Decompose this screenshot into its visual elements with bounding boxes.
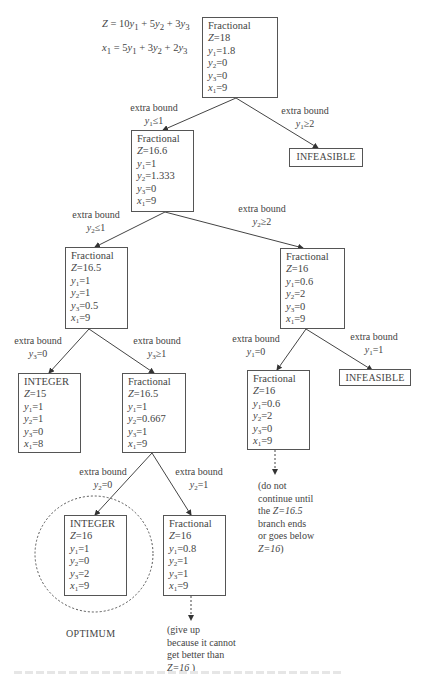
node-z16-waiting: Fractional Z=16 y1=0.6 y2=2 y3=0 x1=9	[247, 370, 310, 450]
node-infeasible-right: INFEASIBLE	[339, 369, 411, 386]
node-status: Fractional	[128, 376, 185, 388]
node-status: INTEGER	[24, 376, 80, 388]
node-z16-giveup: Fractional Z=16 y1=0.8 y2=1 y3=1 x1=9	[163, 515, 226, 596]
edge-label-y2-eq1: extra boundy2=1	[169, 465, 229, 491]
node-status: Fractional	[137, 133, 193, 145]
node-root: Fractional Z=18 y1=1.8 y2=0 y3=0 x1=9	[202, 17, 278, 98]
node-status: Fractional	[71, 250, 127, 262]
edge-label-y1-eq1: extra boundy1=1	[344, 330, 404, 356]
figure-caption-faint	[14, 671, 344, 674]
optimum-label: OPTIMUM	[66, 628, 115, 639]
edge-label-y3-ge1: extra boundy3≥1	[127, 334, 187, 360]
node-status: Fractional	[253, 373, 309, 385]
node-status: INTEGER	[70, 518, 126, 530]
edge-label-y1-le1: extra boundy1≤1	[124, 101, 184, 127]
node-integer-z15: INTEGER Z=15 y1=1 y2=1 y3=0 x1=8	[18, 373, 81, 453]
node-z16-5-a: Fractional Z=16.5 y1=1 y2=1 y3=0.5 x1=9	[65, 247, 128, 329]
node-status: Fractional	[169, 518, 225, 530]
note-do-not-continue: (do not continue until the Z=16.5 branch…	[258, 480, 314, 556]
node-z16-right: Fractional Z=16 y1=0.6 y2=2 y3=0 x1=9	[280, 248, 345, 329]
node-z16-5-b: Fractional Z=16.5 y1=1 y2=0.667 y3=1 x1=…	[122, 373, 186, 453]
node-z16-6: Fractional Z=16.6 y1=1 y2=1.333 y3=0 x1=…	[131, 130, 194, 212]
edge-label-y3-eq0: extra boundy3=0	[8, 334, 68, 360]
node-status: Fractional	[208, 20, 277, 32]
edge-label-y1-eq0: extra boundy1=0	[226, 332, 286, 358]
node-integer-z16-optimum: INTEGER Z=16 y1=1 y2=0 y3=2 x1=9	[64, 515, 127, 596]
node-status: Fractional	[286, 251, 344, 263]
edge-label-y2-eq0: extra boundy2=0	[73, 465, 133, 491]
edge-label-y2-ge2: extra boundy2≥2	[232, 202, 292, 228]
edge-label-y1-ge2: extra boundy1≥2	[275, 104, 335, 130]
note-give-up: (give up because it cannot get better th…	[167, 624, 236, 674]
node-infeasible-top: INFEASIBLE	[289, 148, 363, 167]
edge-label-y2-le1: extra boundy2≤1	[66, 208, 126, 234]
